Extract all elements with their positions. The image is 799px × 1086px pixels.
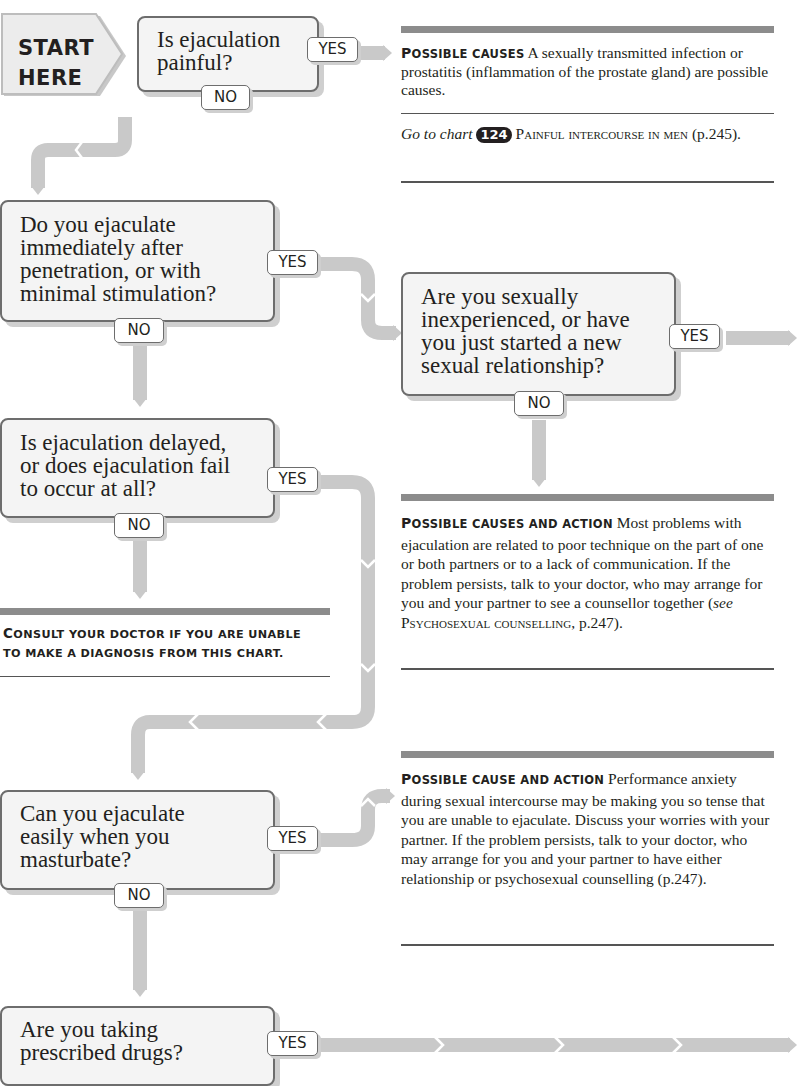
yes-button-painful[interactable]: YES [307, 37, 358, 62]
no-button-inexperienced[interactable]: NO [514, 391, 564, 416]
start-label: START HERE [18, 33, 94, 93]
yes-button-premature[interactable]: YES [267, 250, 318, 275]
divider [401, 181, 774, 183]
question-box-delayed: Is ejaculation delayed, or does ejaculat… [0, 418, 275, 518]
panel-possible-causes-painful: Possible causes A sexually transmitted i… [401, 44, 776, 99]
question-box-premature: Do you ejaculate immediately after penet… [0, 200, 275, 322]
no-button-premature[interactable]: NO [114, 318, 164, 343]
consult-doctor-note: Consult your doctor if you are unable to… [3, 624, 343, 663]
question-box-masturbate: Can you ejaculate easily when you mastur… [0, 790, 275, 890]
consult-bar [0, 608, 330, 615]
panel-bar-anxiety [401, 751, 774, 758]
question-box-inexperienced: Are you sexually inexperienced, or have … [401, 272, 676, 396]
question-box-painful: Is ejaculation painful? [137, 16, 319, 92]
no-button-delayed[interactable]: NO [114, 513, 164, 538]
panel-heading: Possible causes [401, 47, 525, 61]
yes-button-prescribed-drugs[interactable]: YES [267, 1031, 318, 1056]
panel-bar-inexperience [401, 494, 774, 501]
no-button-masturbate[interactable]: NO [114, 883, 164, 908]
yes-button-masturbate[interactable]: YES [267, 826, 318, 851]
panel-cause-action-anxiety: Possible cause and action Performance an… [401, 769, 771, 888]
goto-chart-link[interactable]: Go to chart124Painful intercourse in men… [401, 121, 776, 147]
yes-button-inexperienced[interactable]: YES [669, 324, 720, 349]
divider [401, 944, 774, 946]
panel-causes-action-inexperience: Possible causes and action Most problems… [401, 513, 779, 632]
psychosexual-counselling-link[interactable]: Psychosexual counselling [401, 614, 571, 631]
chart-number-badge: 124 [476, 127, 511, 143]
panel-bar-painful [401, 26, 774, 33]
divider [0, 676, 330, 677]
no-button-painful[interactable]: NO [201, 85, 250, 110]
question-box-prescribed-drugs: Are you taking prescribed drugs? [0, 1006, 275, 1086]
start-here-marker: START HERE [0, 12, 128, 98]
yes-button-delayed[interactable]: YES [267, 467, 318, 492]
divider [401, 668, 774, 670]
divider [401, 113, 774, 114]
panel-heading: Possible cause and action [401, 773, 604, 787]
panel-heading: Possible causes and action [401, 517, 613, 531]
